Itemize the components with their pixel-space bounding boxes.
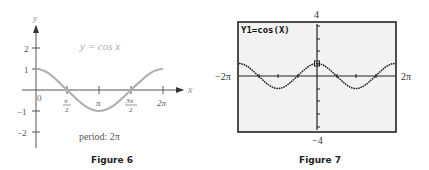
curve-label: y = cos x	[79, 40, 120, 52]
y-axis-label: y	[32, 13, 37, 23]
x-max-label: 2π	[401, 71, 411, 82]
x-tick-3pi-over-2-den: 2	[129, 106, 133, 114]
x-tick-pi: π	[96, 98, 101, 108]
y-min-label: −4	[312, 135, 323, 146]
figure-6: y x y = cos x 0 2 1 −1 −2 π 2 π 3π 2 2π …	[0, 0, 215, 170]
screen-title: Y1=cos(X)	[241, 25, 290, 35]
x-min-label: −2π	[215, 71, 231, 82]
origin-label: 0	[37, 93, 42, 103]
x-tick-pi-over-2-den: 2	[65, 106, 69, 114]
x-axis-label: x	[187, 84, 193, 95]
y-tick-neg1: −1	[17, 107, 27, 117]
x-tick-pi-over-2-num: π	[64, 97, 68, 105]
figure-7-plot: 4 −4 −2π 2π Y1=cos(X)	[215, 0, 429, 170]
figure-7: 4 −4 −2π 2π Y1=cos(X) Figure 7	[215, 0, 429, 170]
figure-6-plot: y x y = cos x 0 2 1 −1 −2 π 2 π 3π 2 2π …	[0, 0, 215, 170]
figure-6-caption: Figure 6	[91, 155, 133, 165]
period-annotation: period: 2π	[79, 131, 120, 142]
y-max-label: 4	[314, 9, 319, 20]
x-tick-2pi: 2π	[157, 98, 167, 108]
y-tick-1: 1	[24, 65, 29, 75]
x-tick-3pi-over-2-num: 3π	[125, 97, 134, 105]
y-tick-neg2: −2	[17, 128, 27, 138]
y-tick-2: 2	[24, 44, 29, 54]
figure-7-caption: Figure 7	[299, 155, 341, 165]
